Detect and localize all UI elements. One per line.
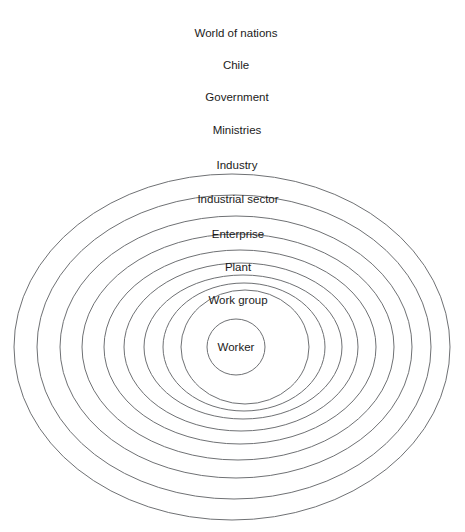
ring-label-plant: Plant bbox=[225, 261, 252, 273]
ring-label-industrial-sector: Industrial sector bbox=[197, 193, 278, 205]
ring-label-world-of-nations: World of nations bbox=[195, 27, 278, 39]
ring-label-enterprise: Enterprise bbox=[212, 228, 264, 240]
ring-label-ministries: Ministries bbox=[213, 124, 262, 136]
ring-label-work-group: Work group bbox=[208, 294, 267, 306]
nested-systems-figure: World of nations Chile Government Minist… bbox=[0, 0, 465, 532]
ring-label-industry: Industry bbox=[217, 159, 258, 171]
ring-label-worker: Worker bbox=[218, 341, 255, 353]
concentric-ellipses-canvas: World of nations Chile Government Minist… bbox=[0, 0, 465, 532]
ring-label-government: Government bbox=[205, 91, 269, 103]
ring-label-chile: Chile bbox=[223, 59, 249, 71]
